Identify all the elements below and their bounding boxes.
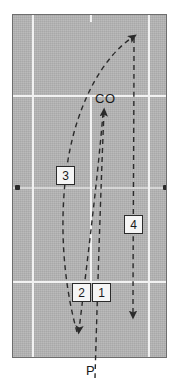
number-box-1: 1 <box>92 283 111 302</box>
movement-path-4 <box>133 38 134 315</box>
number-box-2: 2 <box>72 283 91 302</box>
label-co: CO <box>95 92 116 105</box>
number-box-3: 3 <box>56 166 75 185</box>
number-box-4: 4 <box>124 215 143 234</box>
diagram-canvas: CO P 3 4 2 1 <box>0 0 179 382</box>
label-p: P <box>86 364 95 377</box>
movement-arrows <box>0 0 179 382</box>
